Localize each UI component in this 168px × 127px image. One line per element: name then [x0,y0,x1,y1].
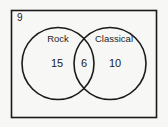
rock-label: Rock [47,33,69,44]
rock-only-count: 15 [51,57,63,69]
classical-only-count: 10 [109,57,121,69]
intersection-count: 6 [81,57,87,69]
outside-count: 9 [17,12,23,23]
classical-label: Classical [95,33,133,44]
venn-diagram: 9 Rock Classical 15 6 10 [0,0,168,127]
